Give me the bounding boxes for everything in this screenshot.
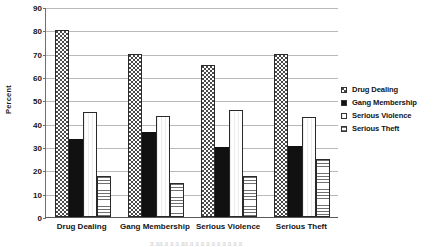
bar	[142, 132, 156, 217]
y-tick-label-0: 0	[38, 214, 42, 223]
bar	[288, 146, 302, 217]
legend-swatch-icon	[341, 113, 347, 119]
y-tick-label-20: 20	[33, 167, 42, 176]
y-tick-mark-10	[43, 195, 46, 196]
legend-swatch-icon	[341, 100, 347, 106]
bar	[97, 176, 111, 217]
page-bleed-text: a aa a a a aa a a a a a a a a a a	[150, 240, 433, 247]
y-tick-label-60: 60	[33, 74, 42, 83]
bar	[215, 147, 229, 217]
bar-chart-figure: Percent 0102030405060708090 Drug Dealing…	[0, 0, 433, 247]
legend-swatch-icon	[341, 87, 347, 93]
legend-item-3[interactable]: Serious Violence	[341, 109, 433, 122]
y-tick-mark-90	[43, 8, 46, 9]
bar	[83, 112, 97, 217]
bar	[316, 159, 330, 217]
y-tick-label-40: 40	[33, 120, 42, 129]
y-tick-label-50: 50	[33, 97, 42, 106]
bar-group-1	[55, 8, 111, 217]
y-tick-label-10: 10	[33, 190, 42, 199]
bar-group-2	[128, 8, 184, 217]
bar	[69, 139, 83, 217]
legend-label: Drug Dealing	[352, 85, 398, 94]
plot-area: 0102030405060708090	[45, 8, 338, 218]
y-tick-mark-60	[43, 78, 46, 79]
y-tick-mark-70	[43, 55, 46, 56]
legend-item-4[interactable]: Serious Theft	[341, 122, 433, 135]
y-tick-mark-30	[43, 148, 46, 149]
legend-label: Serious Theft	[352, 124, 399, 133]
bar-group-3	[201, 8, 257, 217]
y-tick-label-70: 70	[33, 50, 42, 59]
bar	[274, 54, 288, 217]
legend-label: Gang Membership	[352, 98, 417, 107]
legend-item-2[interactable]: Gang Membership	[341, 96, 433, 109]
bar	[156, 116, 170, 218]
y-tick-mark-20	[43, 171, 46, 172]
legend-item-1[interactable]: Drug Dealing	[341, 83, 433, 96]
y-tick-mark-50	[43, 101, 46, 102]
bar	[170, 183, 184, 217]
legend-swatch-icon	[341, 126, 347, 132]
x-tick-label-2: Gang Membership	[120, 222, 190, 231]
bar	[128, 54, 142, 217]
y-tick-label-90: 90	[33, 4, 42, 13]
x-tick-label-3: Serious Violence	[196, 222, 260, 231]
bar	[201, 65, 215, 217]
y-tick-label-30: 30	[33, 144, 42, 153]
x-tick-label-4: Serious Theft	[276, 222, 327, 231]
y-tick-mark-80	[43, 31, 46, 32]
bar	[55, 30, 69, 217]
chart-legend: Drug DealingGang MembershipSerious Viole…	[341, 83, 433, 135]
bar	[302, 117, 316, 217]
y-tick-mark-0	[43, 218, 46, 219]
bar	[243, 176, 257, 217]
legend-label: Serious Violence	[352, 111, 411, 120]
bar	[229, 110, 243, 217]
y-tick-mark-40	[43, 125, 46, 126]
y-tick-label-80: 80	[33, 27, 42, 36]
bar-group-4	[274, 8, 330, 217]
y-axis-title: Percent	[4, 70, 13, 130]
x-tick-label-1: Drug Dealing	[57, 222, 107, 231]
